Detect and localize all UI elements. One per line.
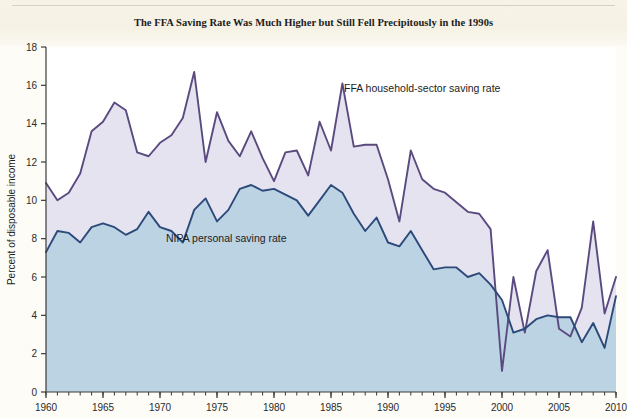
x-axis-tick-label: 2010 — [605, 402, 627, 413]
x-axis-tick-label: 1985 — [320, 402, 343, 413]
y-axis-tick-label: 4 — [31, 310, 37, 321]
y-axis-tick-labels: 024681012141618 — [26, 42, 38, 398]
y-axis-tick-label: 12 — [26, 157, 38, 168]
x-axis-tick-labels: 1960196519701975198019851990199520002005… — [35, 402, 627, 413]
y-axis-tick-label: 0 — [31, 387, 37, 398]
y-axis-title: Percent of disposable income — [6, 153, 17, 285]
y-axis-tick-label: 16 — [26, 80, 38, 91]
x-axis-tick-label: 1960 — [35, 402, 58, 413]
x-axis-tick-label: 1995 — [434, 402, 457, 413]
y-axis-tick-label: 10 — [26, 195, 38, 206]
ffa-series-annotation: FFA household-sector saving rate — [344, 82, 501, 94]
x-axis-major-ticks — [46, 392, 616, 398]
chart-canvas: 024681012141618 196019651970197519801985… — [0, 0, 627, 418]
x-axis-tick-label: 1980 — [263, 402, 286, 413]
x-axis-tick-label: 1990 — [377, 402, 400, 413]
x-axis-tick-label: 1970 — [149, 402, 172, 413]
x-axis-tick-label: 1965 — [92, 402, 115, 413]
x-axis-tick-label: 2000 — [491, 402, 514, 413]
x-axis-tick-label: 1975 — [206, 402, 229, 413]
nipa-series-annotation: NIPA personal saving rate — [166, 232, 287, 244]
y-axis-ticks — [41, 47, 46, 392]
y-axis-tick-label: 14 — [26, 118, 38, 129]
chart-figure: 024681012141618 196019651970197519801985… — [0, 0, 627, 418]
y-axis-tick-label: 18 — [26, 42, 38, 53]
y-axis-tick-label: 8 — [31, 233, 37, 244]
y-axis-tick-label: 2 — [31, 348, 37, 359]
y-axis-tick-label: 6 — [31, 272, 37, 283]
x-axis-tick-label: 2005 — [548, 402, 571, 413]
